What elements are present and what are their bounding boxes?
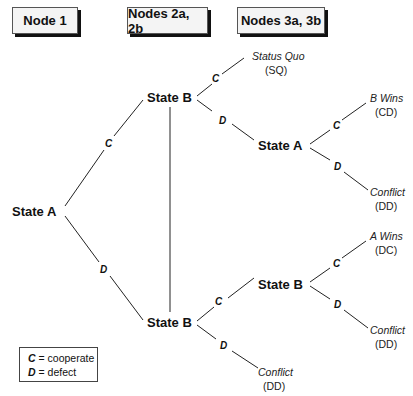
edge-topb-d-1: [197, 100, 212, 111]
move-label-d: D: [100, 264, 107, 275]
edge-root-d-upper: [110, 276, 143, 320]
edge-bottomb-c-1: [197, 307, 214, 321]
legend: C = cooperate D = defect: [19, 347, 98, 382]
edge-bottomb2-c-2: [342, 241, 366, 258]
outcome-b-wins: B Wins: [370, 92, 404, 104]
edge-root-c-upper: [114, 100, 143, 136]
move-label-c: C: [215, 296, 223, 307]
edge-bottomb2-c-1: [310, 268, 330, 282]
outcome-cd-code: (CD): [375, 106, 397, 118]
move-label-c: C: [333, 120, 341, 131]
outcome-dd-code-2: (DD): [375, 338, 397, 350]
edge-topb-c-2: [222, 58, 244, 74]
edge-bottomb-d-2: [232, 351, 258, 368]
move-label-d: D: [220, 340, 227, 351]
legend-key-d: D: [28, 366, 36, 378]
outcome-dd-code-3: (DD): [263, 380, 285, 392]
node-top-state-b: State B: [147, 90, 192, 105]
edge-topb-d-2: [232, 124, 254, 140]
edge-root-d-lower: [65, 216, 99, 262]
outcome-conflict-2: Conflict: [370, 324, 406, 336]
legend-text-defect: = defect: [36, 366, 77, 378]
outcome-sq-code: (SQ): [265, 64, 287, 76]
node-top-state-a: State A: [258, 138, 303, 153]
node-bottom-state-b2: State B: [258, 277, 303, 292]
outcome-conflict-3: Conflict: [258, 366, 294, 378]
edge-topa-c-1: [310, 130, 330, 144]
outcome-a-wins: A Wins: [369, 230, 404, 242]
outcome-conflict-1: Conflict: [370, 186, 406, 198]
edges: [65, 58, 368, 368]
move-label-c: C: [212, 73, 220, 84]
legend-text-cooperate: = cooperate: [36, 352, 95, 364]
edge-bottomb-c-2: [228, 278, 254, 298]
outcome-status-quo: Status Quo: [252, 50, 305, 62]
outcome-dc-code: (DC): [375, 244, 397, 256]
legend-row-cooperate: C = cooperate: [28, 351, 97, 365]
node-root-state-a: State A: [12, 204, 57, 219]
edge-topa-d-1: [310, 148, 330, 160]
move-label-d: D: [334, 161, 341, 172]
move-label-d: D: [334, 299, 341, 310]
edge-topa-d-2: [344, 172, 368, 190]
legend-row-defect: D = defect: [28, 365, 97, 379]
edge-bottomb2-d-2: [344, 310, 368, 328]
move-label-c: C: [333, 258, 341, 269]
edge-bottomb2-d-1: [310, 286, 330, 299]
game-tree: State A State B State B State A State B …: [0, 0, 413, 396]
edge-topb-c-1: [197, 84, 212, 96]
move-label-d: D: [219, 115, 226, 126]
edge-topa-c-2: [342, 103, 366, 120]
move-label-c: C: [105, 138, 113, 149]
node-bottom-state-b: State B: [147, 315, 192, 330]
edge-bottomb-d-1: [197, 325, 216, 339]
legend-key-c: C: [28, 352, 36, 364]
edge-root-c-lower: [65, 150, 104, 206]
outcome-dd-code-1: (DD): [375, 200, 397, 212]
